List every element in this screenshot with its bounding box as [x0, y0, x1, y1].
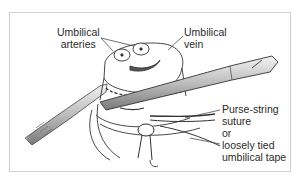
scalpel-instrument [10, 84, 107, 160]
label-line: Umbilical [57, 26, 100, 38]
label-line: Purse-string [222, 103, 286, 115]
purse-string-suture [138, 114, 220, 160]
label-line: Umbilical [184, 26, 227, 38]
label-line: suture [222, 115, 286, 127]
label-line: vein [184, 38, 227, 50]
label-purse-string-suture: Purse-string suture or loosely tied umbi… [222, 103, 286, 163]
label-umbilical-vein: Umbilical vein [184, 26, 227, 50]
label-line: or [222, 127, 286, 139]
label-umbilical-arteries: Umbilical arteries [57, 26, 100, 50]
label-line: umbilical tape [222, 151, 286, 163]
label-line: arteries [57, 38, 100, 50]
label-line: loosely tied [222, 139, 286, 151]
